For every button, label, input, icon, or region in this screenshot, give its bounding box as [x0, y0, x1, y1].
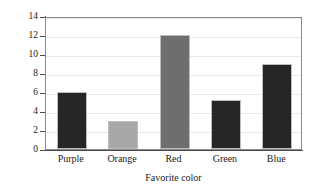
- bar-red: [160, 35, 190, 149]
- gridline: [46, 18, 301, 19]
- plot-area: [45, 17, 302, 150]
- x-axis-tick-label-orange: Orange: [107, 153, 136, 164]
- x-axis-tick-label-red: Red: [165, 153, 181, 164]
- x-axis-tick-label-green: Green: [213, 153, 237, 164]
- bar-chart: Frequency 02468101214 PurpleOrangeRedGre…: [0, 0, 316, 193]
- bar-green: [211, 100, 241, 149]
- y-axis-tick-mark: [40, 93, 45, 94]
- x-axis-title: Favorite color: [45, 172, 302, 183]
- y-axis-title: Frequency: [2, 0, 16, 31]
- y-axis-tick-label: 6: [22, 88, 38, 98]
- y-axis-tick-mark: [40, 17, 45, 18]
- y-axis-tick-label: 0: [22, 145, 38, 155]
- x-axis-tick-label-blue: Blue: [267, 153, 286, 164]
- bar-orange: [108, 121, 138, 150]
- y-axis-tick-label: 12: [22, 31, 38, 41]
- bar-blue: [262, 64, 292, 150]
- plot-inner: [46, 18, 301, 149]
- y-axis-tick-label: 4: [22, 107, 38, 117]
- y-axis-tick-labels: 02468101214: [16, 0, 38, 193]
- y-axis-tick-mark: [40, 55, 45, 56]
- y-axis-tick-mark: [40, 150, 45, 151]
- x-axis-line: [45, 150, 303, 151]
- y-axis-tick-mark: [40, 74, 45, 75]
- y-axis-tick-mark: [40, 131, 45, 132]
- bar-purple: [57, 92, 87, 149]
- y-axis-tick-label: 14: [22, 12, 38, 22]
- x-axis-tick-label-purple: Purple: [58, 153, 84, 164]
- x-axis-tick-labels: PurpleOrangeRedGreenBlue: [45, 153, 302, 169]
- y-axis-tick-label: 2: [22, 126, 38, 136]
- y-axis-tick-label: 8: [22, 69, 38, 79]
- y-axis-tick-mark: [40, 112, 45, 113]
- y-axis-tick-label: 10: [22, 50, 38, 60]
- y-axis-tick-mark: [40, 36, 45, 37]
